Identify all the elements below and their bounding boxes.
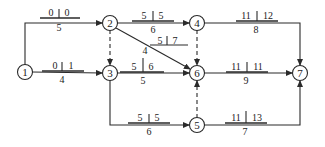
edge-1-3-ls: 1: [69, 60, 74, 71]
node-7: 7: [293, 66, 308, 81]
network-diagram: 0 0 5 0 1 4 5 5 6 5 7 4 5 6 5: [0, 0, 325, 147]
edge-5-7-duration: 7: [243, 126, 248, 137]
node-6-label: 6: [194, 67, 200, 79]
edge-1-3-es: 0: [53, 60, 58, 71]
edge-1-3: 0 1 4: [32, 60, 102, 85]
edge-6-7-es: 11: [231, 61, 241, 72]
edge-6-7: 11 11 9: [204, 61, 292, 86]
node-6: 6: [190, 66, 205, 81]
edge-2-4-es: 5: [142, 10, 147, 21]
node-1-label: 1: [22, 66, 28, 78]
edge-4-7-duration: 8: [254, 24, 259, 35]
edge-1-3-duration: 4: [60, 74, 65, 85]
edge-1-2: 0 0 5: [25, 7, 102, 65]
edge-4-7-es: 11: [241, 10, 251, 21]
edge-4-7: 11 12 8: [204, 10, 300, 65]
node-2: 2: [103, 16, 118, 31]
node-3-label: 3: [107, 67, 113, 79]
node-1: 1: [18, 65, 33, 80]
edge-3-5: 5 5 6: [110, 80, 189, 137]
node-5-label: 5: [194, 119, 200, 131]
edge-5-7-ls: 13: [252, 112, 262, 123]
node-7-label: 7: [297, 67, 303, 79]
edge-1-2-es: 0: [49, 7, 54, 18]
node-2-label: 2: [107, 17, 113, 29]
node-4-label: 4: [194, 17, 200, 29]
edge-2-4: 5 5 6: [117, 10, 189, 35]
edge-3-6-es: 5: [132, 61, 137, 72]
edge-5-7: 11 13 7: [204, 81, 300, 137]
edge-2-6-duration: 4: [143, 45, 148, 56]
edge-4-7-ls: 12: [263, 10, 273, 21]
edge-6-7-ls: 11: [253, 61, 263, 72]
node-5: 5: [190, 118, 205, 133]
edge-1-2-ls: 0: [65, 7, 70, 18]
edge-2-4-ls: 5: [159, 10, 164, 21]
node-4: 4: [190, 16, 205, 31]
edge-3-5-duration: 6: [147, 126, 152, 137]
edge-2-6-ls: 7: [173, 35, 178, 46]
edge-2-6-es: 5: [158, 35, 163, 46]
edge-6-7-duration: 9: [244, 75, 249, 86]
node-3: 3: [103, 66, 118, 81]
edge-2-4-duration: 6: [151, 24, 156, 35]
edge-3-6-duration: 5: [141, 75, 146, 86]
edge-5-7-es: 11: [231, 112, 241, 123]
edge-3-5-es: 5: [138, 112, 143, 123]
edge-1-2-duration: 5: [57, 22, 62, 33]
edge-3-5-ls: 5: [155, 112, 160, 123]
edge-3-6-ls: 6: [149, 61, 154, 72]
